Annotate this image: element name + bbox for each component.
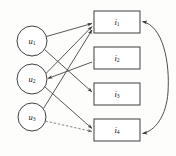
page-bleed-text xyxy=(6,146,156,155)
edge-group xyxy=(44,22,169,134)
latent-node-u1[interactable]: u1 xyxy=(17,26,47,56)
indicator-node-i3[interactable]: i3 xyxy=(94,83,140,105)
indicator-node-i4[interactable]: i4 xyxy=(94,119,140,141)
edge-u3-to-i1 xyxy=(44,30,93,109)
edge-arc-i1-i4 xyxy=(143,22,169,134)
diagram-svg: u1 u2 u3 i1 i2 xyxy=(0,0,176,156)
indicator-node-i2[interactable]: i2 xyxy=(94,47,140,69)
indicator-node-i1[interactable]: i1 xyxy=(94,11,140,33)
path-diagram-canvas: u1 u2 u3 i1 i2 xyxy=(0,0,176,156)
edge-u1-to-i1 xyxy=(46,24,92,37)
edge-u2-to-i4 xyxy=(45,87,92,129)
latent-node-u3[interactable]: u3 xyxy=(18,103,46,131)
latent-node-u2[interactable]: u2 xyxy=(17,64,47,94)
